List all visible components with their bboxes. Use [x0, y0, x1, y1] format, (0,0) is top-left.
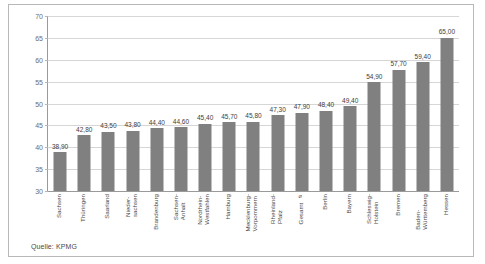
x-axis-label: Gesamt ⌀ [297, 194, 304, 224]
bar-slot: 45,70 [217, 16, 241, 191]
x-label-slot: Bayern [337, 194, 361, 238]
bar-value-label: 45,80 [245, 113, 261, 120]
bar[interactable] [271, 115, 284, 191]
y-tick-mark [45, 191, 48, 192]
plot-area: 303540455055606570 38,9042,8043,5043,804… [47, 16, 459, 192]
bar-value-label: 43,80 [124, 122, 140, 129]
bar-slot: 54,90 [362, 16, 386, 191]
x-label-slot: Rheinland- Pfalz [265, 194, 289, 238]
bar-slot: 44,60 [169, 16, 193, 191]
x-axis-label: Berlin [322, 194, 329, 210]
x-label-slot: Nieder- sachsen [120, 194, 144, 238]
x-axis-label: Bremen [394, 194, 401, 216]
x-label-slot: Hessen [434, 194, 458, 238]
x-label-slot: Nordrhein- Westfahlen [192, 194, 216, 238]
bar-slot: 44,40 [145, 16, 169, 191]
x-axis-label: Nordrhein- Westfahlen [197, 194, 211, 225]
bar-value-label: 47,30 [270, 107, 286, 114]
bar-value-label: 59,40 [415, 54, 431, 61]
bar-slot: 45,40 [193, 16, 217, 191]
bar[interactable] [295, 113, 308, 191]
bar-slot: 47,30 [266, 16, 290, 191]
x-axis-label: Sachsen [56, 194, 63, 218]
bar-series: 38,9042,8043,5043,8044,4044,6045,4045,70… [48, 16, 459, 191]
bar[interactable] [247, 122, 260, 191]
x-axis-label: Sachsen- Anhalt [173, 194, 187, 220]
y-tick-label: 60 [35, 56, 43, 63]
x-axis-label: Brandenburg [152, 194, 159, 230]
x-label-slot: Baden- Württemberg [410, 194, 434, 238]
bar-slot: 48,40 [314, 16, 338, 191]
y-tick-label: 40 [35, 144, 43, 151]
y-tick-label: 55 [35, 78, 43, 85]
bar[interactable] [174, 127, 187, 191]
bar-value-label: 54,90 [366, 74, 382, 81]
x-label-slot: Mecklenburg- Vorpommern [240, 194, 264, 238]
x-axis-label: Thüringen [80, 194, 87, 222]
x-label-slot: Gesamt ⌀ [289, 194, 313, 238]
bar[interactable] [368, 82, 381, 191]
bar-value-label: 45,70 [221, 114, 237, 121]
x-label-slot: Schleswig- Holstein [361, 194, 385, 238]
x-label-slot: Berlin [313, 194, 337, 238]
bar-slot: 49,40 [338, 16, 362, 191]
x-label-slot: Sachsen- Anhalt [168, 194, 192, 238]
y-tick-label: 45 [35, 122, 43, 129]
bar-value-label: 44,60 [173, 119, 189, 126]
chart-figure: 303540455055606570 38,9042,8043,5043,804… [8, 4, 474, 257]
bar-value-label: 48,40 [318, 102, 334, 109]
bar-slot: 38,90 [48, 16, 72, 191]
bar-value-label: 45,40 [197, 115, 213, 122]
x-axis-label: Rheinland- Pfalz [270, 194, 284, 224]
bar[interactable] [223, 122, 236, 191]
source-note: Quelle: KPMG [31, 243, 77, 250]
bar[interactable] [102, 132, 115, 191]
bar[interactable] [440, 38, 453, 191]
y-tick-label: 70 [35, 13, 43, 20]
bar-slot: 43,80 [121, 16, 145, 191]
y-tick-label: 65 [35, 34, 43, 41]
bar[interactable] [416, 62, 429, 191]
bar-slot: 57,70 [386, 16, 410, 191]
bar[interactable] [344, 106, 357, 191]
bar-slot: 47,90 [290, 16, 314, 191]
bar-value-label: 47,90 [294, 104, 310, 111]
x-label-slot: Hamburg [216, 194, 240, 238]
bar-slot: 59,40 [411, 16, 435, 191]
x-label-slot: Bremen [385, 194, 409, 238]
x-axis-label: Bayern [346, 194, 353, 214]
bar[interactable] [78, 135, 91, 191]
x-axis-label: Baden- Württemberg [415, 194, 429, 230]
bar[interactable] [150, 128, 163, 191]
x-label-slot: Saarland [95, 194, 119, 238]
x-axis-label: Schleswig- Holstein [366, 194, 380, 224]
bar[interactable] [126, 131, 139, 191]
y-tick-label: 50 [35, 100, 43, 107]
bar[interactable] [54, 152, 67, 191]
x-axis-label: Hessen [442, 194, 449, 215]
x-axis-label: Hamburg [225, 194, 232, 219]
x-axis-label: Mecklenburg- Vorpommern [246, 194, 260, 232]
bar-slot: 65,00 [435, 16, 459, 191]
x-axis-label: Nieder- sachsen [125, 194, 139, 217]
bar-slot: 45,80 [241, 16, 265, 191]
bar-value-label: 57,70 [390, 61, 406, 68]
bar-value-label: 42,80 [76, 127, 92, 134]
x-axis-category-labels: SachsenThüringenSaarlandNieder- sachsenB… [47, 194, 459, 238]
bar-value-label: 38,90 [52, 144, 68, 151]
bar[interactable] [199, 124, 212, 191]
x-axis-label: Saarland [104, 194, 111, 219]
x-label-slot: Brandenburg [144, 194, 168, 238]
bar[interactable] [320, 111, 333, 192]
gridline [48, 191, 459, 192]
bar-value-label: 44,40 [149, 120, 165, 127]
y-tick-label: 30 [35, 188, 43, 195]
x-label-slot: Sachsen [47, 194, 71, 238]
bar-slot: 43,50 [96, 16, 120, 191]
bar[interactable] [392, 70, 405, 191]
bar-value-label: 43,50 [100, 123, 116, 130]
bar-slot: 42,80 [72, 16, 96, 191]
bar-value-label: 65,00 [439, 29, 455, 36]
y-tick-label: 35 [35, 166, 43, 173]
x-label-slot: Thüringen [71, 194, 95, 238]
